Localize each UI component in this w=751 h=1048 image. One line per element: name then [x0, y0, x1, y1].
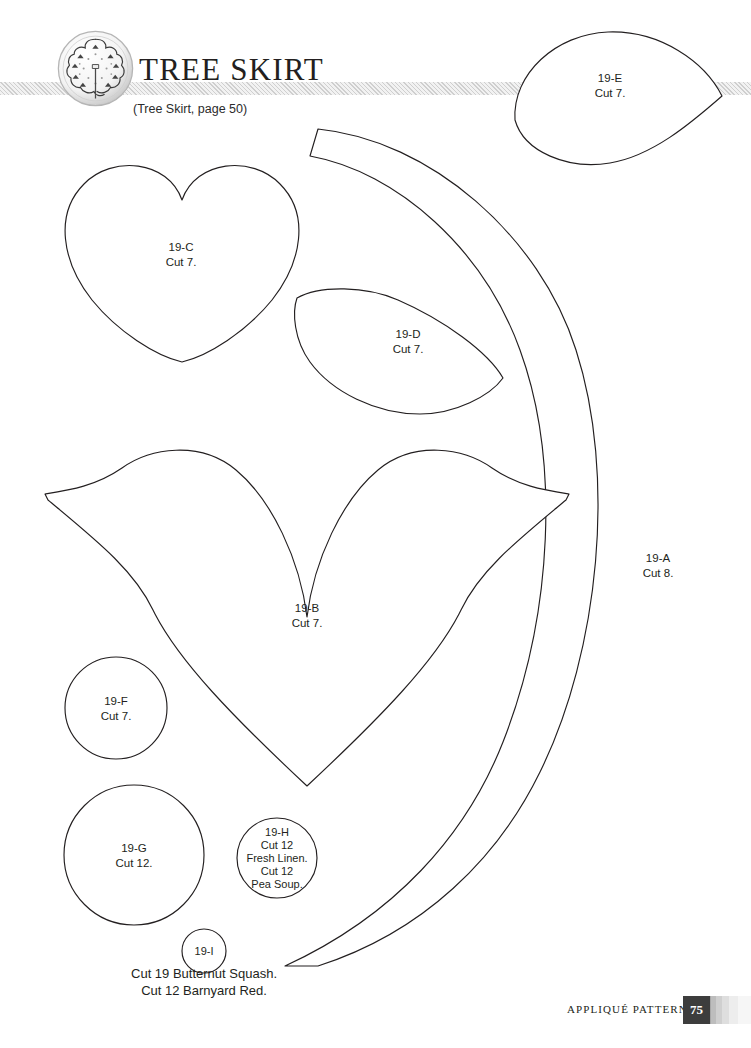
page-subtitle: (Tree Skirt, page 50) [133, 102, 247, 116]
page-number-badge: 75 [683, 996, 710, 1024]
footer-section-label: APPLIQUÉ PATTERNS [567, 1003, 695, 1015]
piece-outline-19-G [64, 785, 204, 925]
piece-outline-19-I [182, 929, 226, 973]
footer-gradient-bar [706, 996, 751, 1024]
piece-outline-19-D [295, 289, 503, 414]
piece-outline-19-F [65, 657, 167, 759]
tree-skirt-circular-logo [56, 29, 135, 108]
pattern-page: TREE SKIRT (Tree Skirt, page 50) 19-A Cu… [0, 0, 751, 1048]
piece-outline-19-C [65, 166, 299, 362]
piece-outline-19-E [515, 32, 722, 165]
pattern-outlines [0, 0, 751, 1048]
page-title: TREE SKIRT [139, 54, 324, 85]
piece-outline-19-H [237, 818, 317, 898]
